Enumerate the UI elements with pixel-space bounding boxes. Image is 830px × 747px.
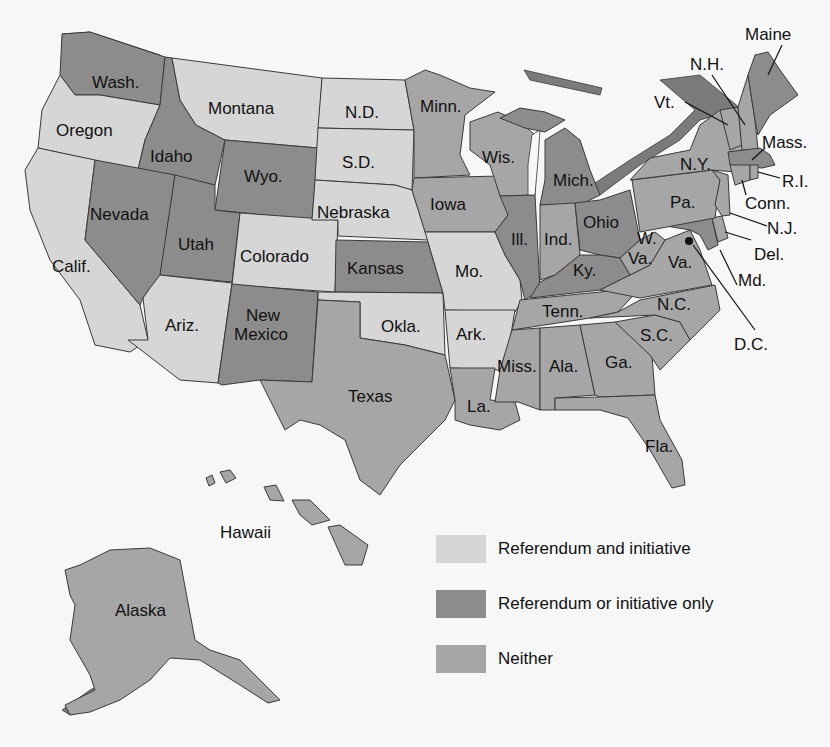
- coast-shadow: [524, 70, 602, 95]
- svg-text:New: New: [246, 306, 281, 325]
- dc-marker: [685, 237, 693, 245]
- svg-text:W.: W.: [637, 229, 657, 248]
- svg-text:Okla.: Okla.: [381, 317, 421, 336]
- svg-text:Montana: Montana: [208, 99, 275, 118]
- svg-text:Idaho: Idaho: [150, 147, 193, 166]
- state-wash[interactable]: [60, 32, 165, 105]
- svg-text:Ind.: Ind.: [544, 230, 572, 249]
- svg-text:Kansas: Kansas: [347, 259, 404, 278]
- svg-text:Del.: Del.: [754, 245, 784, 264]
- alaska-shape[interactable]: [62, 548, 280, 715]
- svg-text:Mich.: Mich.: [553, 171, 594, 190]
- legend-label: Referendum and initiative: [498, 539, 691, 559]
- legend-label: Neither: [498, 649, 553, 669]
- svg-text:Ky.: Ky.: [573, 261, 596, 280]
- legend-item-one: Referendum or initiative only: [436, 590, 713, 618]
- svg-text:D.C.: D.C.: [734, 335, 768, 354]
- svg-text:R.I.: R.I.: [782, 172, 808, 191]
- legend-label: Referendum or initiative only: [498, 594, 713, 614]
- svg-text:Hawaii: Hawaii: [220, 523, 271, 542]
- svg-text:N.D.: N.D.: [345, 103, 379, 122]
- legend-swatch-light: [436, 535, 486, 563]
- svg-text:Iowa: Iowa: [430, 195, 466, 214]
- svg-text:Mass.: Mass.: [762, 133, 807, 152]
- svg-text:Wyo.: Wyo.: [244, 167, 283, 186]
- legend-swatch-medium: [436, 645, 486, 673]
- svg-text:Miss.: Miss.: [497, 357, 537, 376]
- svg-text:Wash.: Wash.: [92, 73, 140, 92]
- svg-text:Conn.: Conn.: [745, 194, 790, 213]
- svg-text:Minn.: Minn.: [420, 97, 462, 116]
- svg-text:S.D.: S.D.: [342, 153, 375, 172]
- legend-item-neither: Neither: [436, 645, 713, 673]
- svg-text:Nevada: Nevada: [90, 205, 149, 224]
- svg-text:Alaska: Alaska: [115, 601, 167, 620]
- svg-text:N.Y.: N.Y.: [680, 155, 711, 174]
- svg-text:Mexico: Mexico: [234, 325, 288, 344]
- state-mich[interactable]: [540, 128, 600, 205]
- svg-text:Va.: Va.: [668, 253, 692, 272]
- svg-text:N.C.: N.C.: [657, 295, 691, 314]
- svg-text:Ga.: Ga.: [605, 353, 632, 372]
- svg-text:Fla.: Fla.: [645, 437, 673, 456]
- legend-item-both: Referendum and initiative: [436, 535, 713, 563]
- state-conn[interactable]: [730, 165, 750, 185]
- svg-text:S.C.: S.C.: [640, 326, 673, 345]
- svg-text:Md.: Md.: [738, 271, 766, 290]
- state-ri[interactable]: [750, 165, 758, 180]
- svg-text:Tenn.: Tenn.: [542, 302, 584, 321]
- svg-text:Oregon: Oregon: [56, 121, 113, 140]
- svg-text:Ill.: Ill.: [511, 230, 528, 249]
- svg-text:Ark.: Ark.: [456, 325, 486, 344]
- svg-text:Utah: Utah: [178, 235, 214, 254]
- svg-text:Ariz.: Ariz.: [165, 316, 199, 335]
- svg-text:N.H.: N.H.: [690, 55, 724, 74]
- legend-swatch-dark: [436, 590, 486, 618]
- svg-text:N.J.: N.J.: [767, 219, 797, 238]
- svg-text:Wis.: Wis.: [482, 148, 515, 167]
- svg-text:La.: La.: [467, 397, 491, 416]
- svg-text:Maine: Maine: [745, 25, 791, 44]
- svg-text:Nebraska: Nebraska: [317, 203, 390, 222]
- svg-text:Calif.: Calif.: [52, 257, 91, 276]
- svg-text:Va.: Va.: [628, 249, 652, 268]
- svg-text:Colorado: Colorado: [240, 247, 309, 266]
- legend: Referendum and initiative Referendum or …: [436, 535, 713, 700]
- svg-text:Ala.: Ala.: [549, 357, 578, 376]
- svg-text:Texas: Texas: [348, 387, 392, 406]
- svg-text:Vt.: Vt.: [654, 93, 675, 112]
- hawaii-islands[interactable]: [206, 470, 368, 565]
- svg-text:Mo.: Mo.: [455, 262, 483, 281]
- svg-text:Ohio: Ohio: [583, 213, 619, 232]
- svg-text:Pa.: Pa.: [670, 193, 696, 212]
